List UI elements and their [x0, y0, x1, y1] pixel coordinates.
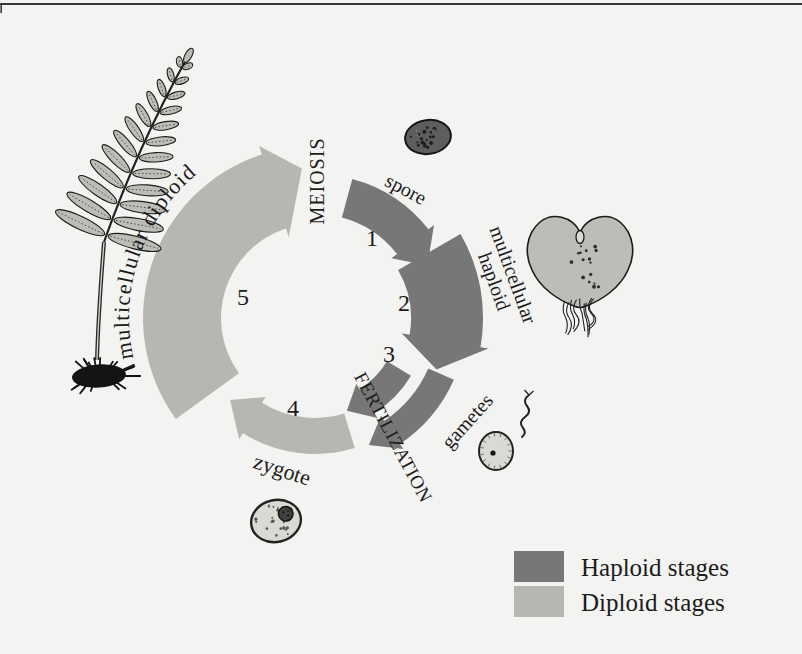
stage-number-4: 4	[287, 395, 299, 421]
decor	[594, 249, 597, 252]
decor	[481, 454, 484, 455]
egg-body	[479, 432, 513, 470]
decor	[597, 285, 600, 288]
legend-label-diploid: Diploid stages	[581, 589, 725, 616]
egg-illustration	[479, 432, 513, 470]
decor	[593, 245, 597, 249]
decor	[588, 281, 591, 284]
meiosis-label: MEIOSIS	[306, 137, 328, 224]
decor	[589, 273, 592, 276]
decor	[580, 245, 582, 247]
stage-number-3: 3	[383, 341, 395, 367]
stage-number-1: 1	[366, 225, 378, 251]
legend-swatch-haploid	[514, 551, 564, 582]
gametophyte-notch-droplet	[576, 231, 584, 244]
stage-number-2: 2	[398, 290, 410, 316]
decor	[581, 275, 585, 279]
decor	[582, 258, 585, 261]
fern-life-cycle-figure: MEIOSIS FERTILIZATION spore multicellula…	[0, 0, 802, 654]
decor	[579, 251, 582, 254]
fern-life-cycle-diagram: MEIOSIS FERTILIZATION spore multicellula…	[0, 0, 802, 654]
decor	[481, 447, 484, 448]
egg-nucleus	[490, 450, 495, 455]
decor	[592, 285, 596, 289]
decor	[585, 249, 588, 252]
legend-swatch-diploid	[514, 586, 564, 617]
legend-label-haploid: Haploid stages	[581, 554, 729, 581]
decor	[593, 282, 595, 284]
decor	[588, 257, 591, 260]
stage-number-5: 5	[237, 284, 249, 310]
decor	[589, 261, 591, 263]
decor	[570, 260, 574, 264]
